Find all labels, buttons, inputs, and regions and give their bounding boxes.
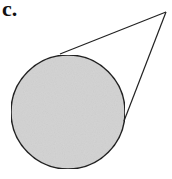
tangent-line-upper: [60, 12, 166, 54]
shaded-circle: [11, 55, 125, 169]
tangent-diagram: [0, 0, 172, 179]
tangent-line-lower: [124, 12, 166, 121]
